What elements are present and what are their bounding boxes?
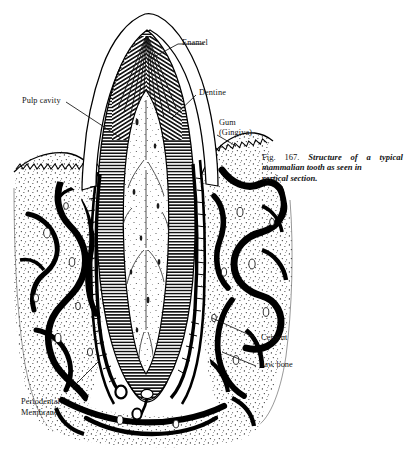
- figure-caption-line3: tooth as seen in: [307, 162, 362, 172]
- tooth-diagram: [0, 0, 405, 449]
- figure-container: Enamel Dentine Gum (Gingiva) Pulp cavity…: [0, 0, 405, 449]
- label-dentine: Dentine: [199, 88, 226, 98]
- label-periodental-line2: Membrane: [21, 408, 58, 417]
- label-cement: Cement: [261, 333, 287, 343]
- label-periodental-line1: Periodental: [21, 397, 60, 406]
- label-enamel: Enamel: [182, 38, 208, 48]
- label-gum: Gum (Gingiva): [219, 118, 267, 137]
- label-jaw-bone: Jaw bone: [261, 360, 293, 370]
- label-gum-line1: Gum: [219, 118, 236, 127]
- figure-caption-line4: vertical section.: [262, 173, 403, 183]
- figure-number: Fig. 167.: [262, 152, 299, 162]
- label-gum-line2: (Gingiva): [219, 128, 252, 137]
- label-pulp-cavity: Pulp cavity: [22, 96, 61, 106]
- label-periodental-membrane: Periodental Membrane: [21, 396, 91, 418]
- figure-caption-line1: Structure of a: [308, 152, 371, 162]
- figure-caption: Fig. 167. Structure of a typical mammali…: [262, 152, 403, 183]
